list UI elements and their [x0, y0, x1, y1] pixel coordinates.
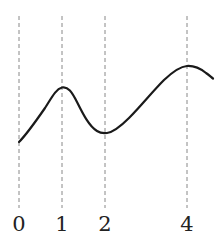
x-tick-label-4: 4	[180, 212, 193, 236]
plot-background	[0, 0, 222, 243]
chart-figure: 0 1 2 4	[0, 0, 222, 243]
x-tick-label-2: 2	[98, 212, 111, 236]
x-tick-label-0: 0	[12, 212, 25, 236]
plot-area: 0 1 2 4	[0, 0, 222, 243]
x-tick-label-1: 1	[55, 212, 68, 236]
